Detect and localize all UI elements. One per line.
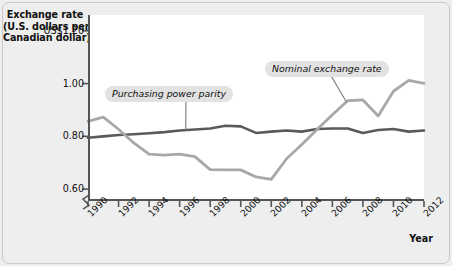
annotation-nominal-exchange-rate: Nominal exchange rate [265, 61, 389, 77]
y-tick-label: 1.00 [14, 78, 84, 89]
y-tick-label: 0.80 [14, 130, 84, 141]
y-axis-tick-labels: US$1.201.000.800.60 [12, 0, 84, 266]
y-tick-label: US$1.20 [14, 25, 84, 36]
plot-area [88, 15, 424, 201]
y-tick-label: 0.60 [14, 183, 84, 194]
series-line-ppp [88, 126, 424, 138]
annotation-purchasing-power-parity: Purchasing power parity [105, 86, 233, 102]
x-axis-title: Year [409, 233, 433, 244]
chart-panel: Exchange rate (U.S. dollars per Canadian… [0, 0, 452, 266]
x-tick-label: 2012 [421, 194, 446, 219]
chart-svg [88, 15, 424, 201]
